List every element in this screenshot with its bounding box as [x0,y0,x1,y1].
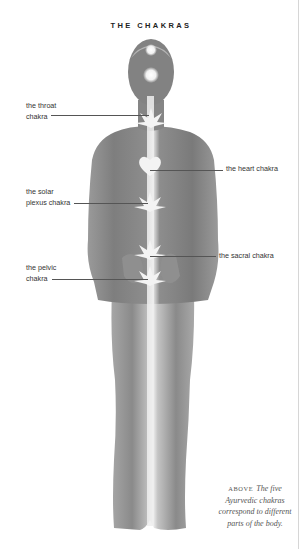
caption-line: parts of the body. [205,518,302,530]
label-heart-chakra: the heart chakra [226,163,278,174]
label-sacral-chakra: the sacral chakra [219,250,274,261]
label-pelvic-chakra: the pelvic chakra [26,262,56,284]
caption-line: correspond to different [205,506,302,518]
label-line: the throat [26,100,56,111]
leader-line-sacral [150,256,216,257]
label-throat-chakra: the throat chakra [26,100,56,122]
caption-line: ABOVEThe five [205,483,302,495]
leader-line-throat [51,115,149,116]
leader-line-heart [150,170,223,171]
caption-text: The five [256,484,282,493]
label-line: the heart chakra [226,163,278,174]
label-line: plexus chakra [26,197,70,208]
label-line: the pelvic [26,262,56,273]
caption-prefix: ABOVE [228,485,253,492]
caption-line: Ayurvedic chakras [205,495,302,507]
page: THE CHAKRAS [0,0,302,549]
label-line: the solar [26,186,70,197]
figure-caption: ABOVEThe five Ayurvedic chakras correspo… [205,483,302,529]
leader-line-pelvic [52,279,148,280]
leader-line-solar-plexus [74,203,148,204]
label-solar-plexus-chakra: the solar plexus chakra [26,186,70,208]
label-line: the sacral chakra [219,250,274,261]
label-line: chakra [26,111,56,122]
